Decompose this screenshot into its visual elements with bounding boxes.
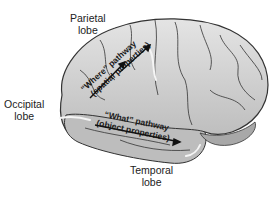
occipital-label-line2: lobe — [4, 110, 44, 122]
parietal-lobe-label: Parietal lobe — [70, 12, 106, 36]
temporal-label-line2: lobe — [130, 176, 173, 188]
temporal-label-line1: Temporal — [130, 164, 173, 176]
parietal-label-line1: Parietal — [70, 12, 106, 24]
occipital-lobe-label: Occipital lobe — [4, 98, 44, 122]
parietal-label-line2: lobe — [70, 24, 106, 36]
occipital-label-line1: Occipital — [4, 98, 44, 110]
temporal-lobe-label: Temporal lobe — [130, 164, 173, 188]
